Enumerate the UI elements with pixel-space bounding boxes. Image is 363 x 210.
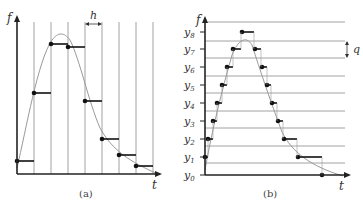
caption-b: (b) — [263, 188, 277, 199]
sample-point — [66, 45, 71, 50]
arrow-down-icon — [345, 54, 349, 58]
interval-q-arrow — [345, 41, 349, 58]
level-label: y4 — [183, 97, 195, 111]
sample-point — [270, 101, 275, 106]
interval-h-arrow — [85, 22, 102, 26]
sample-point — [49, 42, 54, 47]
x-axis-label: t — [152, 178, 157, 192]
arrow-up-icon — [345, 41, 349, 45]
x-axis-arrow-icon — [344, 172, 351, 178]
sample-point — [276, 119, 281, 124]
interval-q-label: q — [353, 43, 360, 56]
sample-point — [282, 137, 287, 142]
panel-b: q f t (b) y0y1y2y3y4y5y6y7y8 — [183, 13, 360, 199]
level-label: y6 — [183, 61, 195, 75]
arrow-right-icon — [98, 22, 102, 26]
sample-point — [32, 91, 37, 96]
sample-hold-segments — [15, 42, 153, 169]
signal-curve — [17, 34, 158, 174]
caption-a: (a) — [79, 188, 93, 199]
arrow-left-icon — [85, 22, 89, 26]
sample-point — [296, 155, 301, 160]
x-axis-label: t — [339, 179, 344, 193]
level-label: y8 — [183, 26, 195, 40]
y-axis-label: f — [195, 13, 203, 27]
sample-point — [253, 47, 258, 52]
level-label: y0 — [183, 169, 195, 183]
interval-h-label: h — [90, 9, 97, 22]
y-axis-arrow-icon — [14, 15, 20, 22]
y-axis-label: f — [6, 11, 14, 25]
level-label: y2 — [183, 133, 195, 147]
level-label: y1 — [183, 151, 195, 165]
level-label: y7 — [183, 43, 195, 57]
sample-point — [240, 30, 245, 35]
sample-point — [100, 137, 105, 142]
level-label: y5 — [183, 79, 195, 93]
x-axis-arrow-icon — [155, 171, 162, 177]
sample-point — [117, 153, 122, 158]
figure-canvas: h f t (a) q f t (b) y0y1y2y3y4y5y6y7y8 — [0, 0, 363, 210]
level-labels: y0y1y2y3y4y5y6y7y8 — [183, 26, 195, 183]
panel-a: h f t (a) — [6, 9, 162, 199]
signal-curve — [205, 40, 343, 176]
sample-point — [83, 99, 88, 104]
sample-point — [134, 164, 139, 169]
y-axis-arrow-icon — [202, 16, 208, 23]
sample-point — [260, 65, 265, 70]
sample-hold-segments — [203, 30, 325, 178]
level-label: y3 — [183, 115, 195, 129]
level-grid-lines — [205, 22, 345, 163]
